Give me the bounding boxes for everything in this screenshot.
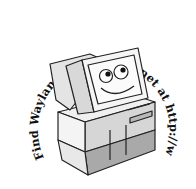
computer-illustration: Find Wayland on the Internet at http://w…: [0, 0, 196, 189]
illustration: Find Wayland on the Internet at http://w…: [0, 0, 196, 189]
